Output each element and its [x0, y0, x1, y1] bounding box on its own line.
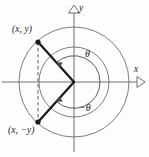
y-axis-label: y: [79, 4, 83, 14]
lower-point-marker: [35, 119, 40, 124]
x-axis-label: x: [134, 65, 138, 75]
x-axis-arrowhead-icon: [137, 77, 145, 88]
upper-point-marker: [35, 39, 40, 44]
theta-label: θ: [85, 49, 90, 59]
negative-theta-label: −θ: [79, 103, 91, 113]
upper-point-label: (x, y): [12, 25, 32, 35]
y-axis-arrowhead-icon: [69, 5, 80, 13]
figure-root: (x, y) (x, −y) y x θ −θ: [0, 0, 149, 157]
lower-point-label: (x, −y): [8, 126, 35, 136]
